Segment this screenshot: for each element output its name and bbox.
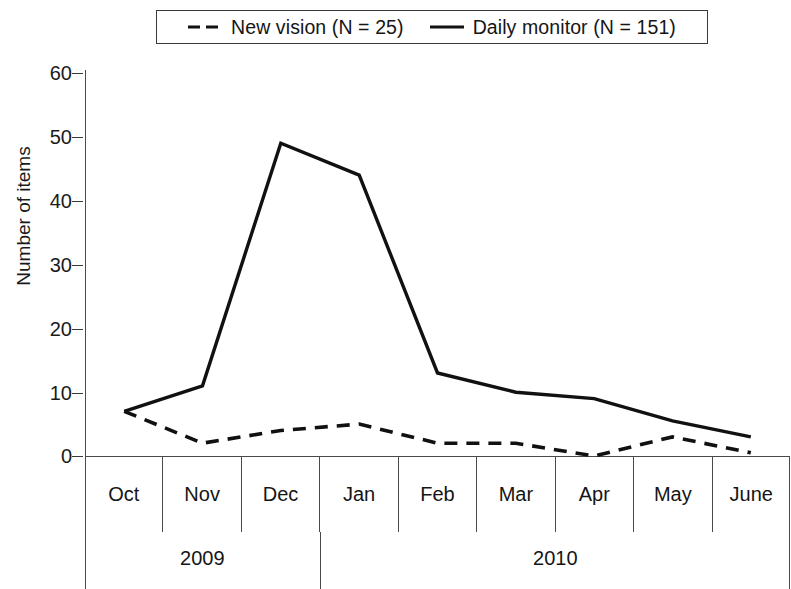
month-cell-apr: Apr xyxy=(556,456,634,532)
month-cell-june: June xyxy=(713,456,790,532)
chart-legend: New vision (N = 25) Daily monitor (N = 1… xyxy=(156,10,708,44)
y-tick-mark-60 xyxy=(72,73,83,74)
y-tick-mark-0 xyxy=(72,456,83,457)
dashed-line-swatch-icon xyxy=(188,21,222,33)
month-cell-oct: Oct xyxy=(85,456,163,532)
y-tick-label-50: 50 xyxy=(26,126,72,149)
month-label-row: Oct Nov Dec Jan Feb Mar Apr May June xyxy=(85,456,790,532)
legend-entry-daily-monitor: Daily monitor (N = 151) xyxy=(430,16,676,39)
y-tick-label-20: 20 xyxy=(26,318,72,341)
month-cell-nov: Nov xyxy=(163,456,241,532)
month-cell-dec: Dec xyxy=(242,456,320,532)
y-tick-label-0: 0 xyxy=(26,445,72,468)
y-tick-label-30: 30 xyxy=(26,254,72,277)
y-tick-label-40: 40 xyxy=(26,190,72,213)
y-tick-label-60: 60 xyxy=(26,62,72,85)
solid-line-swatch-icon xyxy=(430,21,464,33)
chart-figure: New vision (N = 25) Daily monitor (N = 1… xyxy=(0,0,791,589)
series-canvas xyxy=(85,62,790,456)
legend-label-new-vision: New vision (N = 25) xyxy=(231,16,404,39)
y-tick-mark-50 xyxy=(72,137,83,138)
legend-entry-new-vision: New vision (N = 25) xyxy=(188,16,404,39)
year-cell-2009: 2009 xyxy=(85,532,321,589)
y-tick-mark-10 xyxy=(72,393,83,394)
series-line-daily-monitor xyxy=(124,143,751,437)
plot-area xyxy=(85,62,790,456)
y-axis-ticks: 60 50 40 30 20 10 0 xyxy=(14,0,72,589)
month-cell-feb: Feb xyxy=(399,456,477,532)
legend-label-daily-monitor: Daily monitor (N = 151) xyxy=(473,16,676,39)
year-label-row: 2009 2010 xyxy=(85,532,790,589)
year-cell-2010: 2010 xyxy=(321,532,790,589)
y-tick-mark-30 xyxy=(72,265,83,266)
month-cell-may: May xyxy=(634,456,712,532)
month-cell-mar: Mar xyxy=(477,456,555,532)
y-tick-label-10: 10 xyxy=(26,382,72,405)
month-cell-jan: Jan xyxy=(320,456,398,532)
x-axis-table: Oct Nov Dec Jan Feb Mar Apr May June 200… xyxy=(85,456,790,589)
y-tick-mark-40 xyxy=(72,201,83,202)
y-tick-mark-20 xyxy=(72,329,83,330)
